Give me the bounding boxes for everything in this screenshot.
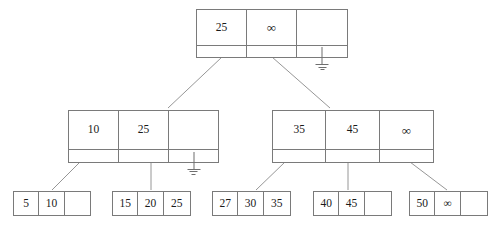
- null-pointer-ground-icon: [316, 47, 329, 70]
- b-plus-tree-diagram: 25 ∞ 10 25: [0, 0, 495, 228]
- internal-left-key-cell-1: 25: [119, 111, 169, 149]
- leaf-2-cell-2: 25: [164, 192, 190, 215]
- internal-left-key-cell-0: 10: [69, 111, 119, 149]
- internal-right-pointer-row: [273, 150, 433, 162]
- leaf-5-cell-0: 50: [410, 192, 435, 215]
- root-key-cell-2: [297, 10, 347, 45]
- leaf-node-2[interactable]: 15 20 25: [112, 191, 191, 216]
- internal-right-pointer-cell-1[interactable]: [326, 150, 379, 162]
- root-pointer-cell-1[interactable]: [247, 46, 297, 58]
- root-pointer-cell-2[interactable]: [297, 46, 347, 58]
- leaf-1-cell-0: 5: [14, 192, 39, 215]
- root-key-cell-0: 25: [197, 10, 247, 45]
- root-node[interactable]: 25 ∞: [196, 9, 348, 58]
- leaf-3-cell-2: 35: [264, 192, 290, 215]
- edge-internal-right-to-leaf-3: [256, 162, 285, 190]
- internal-node-right[interactable]: 35 45 ∞: [272, 110, 434, 163]
- leaf-2-cell-0: 15: [113, 192, 138, 215]
- internal-left-pointer-cell-1[interactable]: [119, 150, 169, 162]
- edge-root-to-internal-left: [168, 57, 222, 108]
- leaf-3-cell-1: 30: [238, 192, 263, 215]
- internal-left-key-row: 10 25: [69, 111, 218, 150]
- internal-left-pointer-cell-2[interactable]: [169, 150, 218, 162]
- null-pointer-ground-icon: [187, 152, 200, 175]
- leaf-node-5[interactable]: 50 ∞: [409, 191, 488, 216]
- leaf-4-cell-1: 45: [339, 192, 364, 215]
- leaf-1-cell-1: 10: [39, 192, 64, 215]
- root-pointer-row: [197, 46, 347, 58]
- leaf-2-cell-1: 20: [138, 192, 163, 215]
- internal-left-pointer-cell-0[interactable]: [69, 150, 119, 162]
- internal-right-key-cell-2: ∞: [380, 111, 433, 149]
- root-key-row: 25 ∞: [197, 10, 347, 46]
- leaf-node-1[interactable]: 5 10: [13, 191, 91, 216]
- internal-right-pointer-cell-2[interactable]: [380, 150, 433, 162]
- leaf-4-cell-0: 40: [314, 192, 339, 215]
- internal-right-key-cell-1: 45: [326, 111, 379, 149]
- internal-left-key-cell-2: [169, 111, 218, 149]
- internal-left-pointer-row: [69, 150, 218, 162]
- leaf-3-cell-0: 27: [213, 192, 238, 215]
- leaf-node-3[interactable]: 27 30 35: [212, 191, 291, 216]
- internal-right-key-row: 35 45 ∞: [273, 111, 433, 150]
- edge-internal-right-to-leaf-5: [410, 162, 447, 190]
- leaf-4-cell-2: [365, 192, 391, 215]
- root-key-cell-1: ∞: [247, 10, 297, 45]
- leaf-5-cell-1: ∞: [435, 192, 460, 215]
- internal-right-key-cell-0: 35: [273, 111, 326, 149]
- root-pointer-cell-0[interactable]: [197, 46, 247, 58]
- internal-right-pointer-cell-0[interactable]: [273, 150, 326, 162]
- leaf-node-4[interactable]: 40 45: [313, 191, 392, 216]
- leaf-5-cell-2: [461, 192, 487, 215]
- internal-node-left[interactable]: 10 25: [68, 110, 219, 163]
- leaf-1-cell-2: [65, 192, 90, 215]
- edge-internal-left-to-leaf-1: [52, 162, 80, 190]
